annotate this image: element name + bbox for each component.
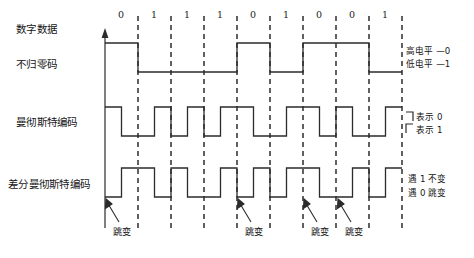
legend-means-zero: 表示 0 xyxy=(416,110,443,122)
row-label-manchester: 曼彻斯特编码 xyxy=(16,114,78,129)
bit-label-1: 1 xyxy=(147,9,161,20)
bit-label-6: 0 xyxy=(312,9,326,20)
falling-edge-glyph xyxy=(406,112,413,121)
legend-one-no-change: 遇 1 不变 xyxy=(408,172,447,184)
rising-edge-glyph xyxy=(406,124,413,133)
legend-high-level: 高电平 —0 xyxy=(406,44,450,56)
waveform-canvas xyxy=(0,0,474,258)
nrz-waveform xyxy=(105,43,402,72)
bit-label-8: 1 xyxy=(378,9,392,20)
bit-label-3: 1 xyxy=(213,9,227,20)
row-label-digital-data: 数字数据 xyxy=(16,21,57,36)
transition-label-4: 跳变 xyxy=(345,224,363,238)
transition-label-3: 跳变 xyxy=(311,224,329,238)
legend-low-level: 低电平 —1 xyxy=(406,57,450,69)
bit-label-2: 1 xyxy=(180,9,194,20)
encoding-diagram: 数字数据 不归零码 曼彻斯特编码 差分曼彻斯特编码 0 1 1 1 0 1 0 … xyxy=(0,0,474,258)
transition-arrows xyxy=(106,199,352,222)
transition-label-2: 跳变 xyxy=(245,224,263,238)
bit-label-4: 0 xyxy=(246,9,260,20)
legend-means-one: 表示 1 xyxy=(416,123,443,135)
bit-label-5: 1 xyxy=(279,9,293,20)
diff-manchester-waveform xyxy=(105,168,402,197)
vertical-axis xyxy=(102,28,109,228)
bit-label-7: 0 xyxy=(345,9,359,20)
manchester-waveform xyxy=(105,107,402,136)
legend-zero-transition: 遇 0 跳变 xyxy=(408,186,447,198)
row-label-nrz: 不归零码 xyxy=(16,56,57,71)
bit-label-0: 0 xyxy=(114,9,128,20)
row-label-diff-manchester: 差分曼彻斯特编码 xyxy=(8,176,90,191)
transition-label-1: 跳变 xyxy=(113,224,131,238)
